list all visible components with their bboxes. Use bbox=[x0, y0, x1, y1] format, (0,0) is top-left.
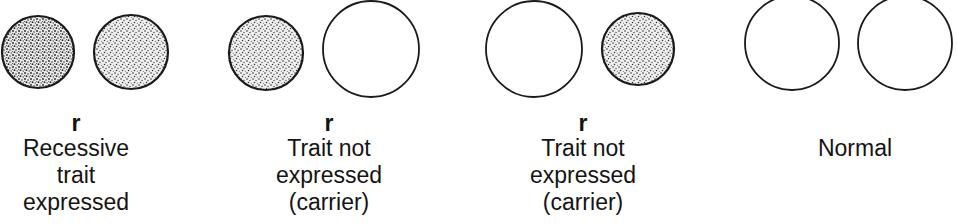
label-line: Trait not bbox=[483, 135, 683, 162]
stippled-chromosome-circle bbox=[602, 13, 674, 85]
group-label-normal: Normal bbox=[755, 135, 955, 162]
label-line: Normal bbox=[755, 135, 955, 162]
label-line: expressed bbox=[0, 189, 176, 216]
group-label-carrier-left: rTrait notexpressed(carrier) bbox=[229, 111, 429, 216]
stippled-chromosome-circle bbox=[2, 16, 74, 88]
label-line: (carrier) bbox=[483, 189, 683, 216]
open-chromosome-circle bbox=[486, 1, 582, 97]
label-line: expressed bbox=[229, 162, 429, 189]
label-line: expressed bbox=[483, 162, 683, 189]
label-line: trait bbox=[0, 162, 176, 189]
label-line: Trait not bbox=[229, 135, 429, 162]
stippled-chromosome-circle bbox=[229, 16, 303, 90]
group-label-carrier-right: rTrait notexpressed(carrier) bbox=[483, 111, 683, 216]
allele-symbol: r bbox=[483, 111, 683, 135]
open-chromosome-circle bbox=[323, 1, 419, 97]
label-line: (carrier) bbox=[229, 189, 429, 216]
open-chromosome-circle bbox=[858, 0, 952, 90]
group-label-recessive-expressed: rRecessivetraitexpressed bbox=[0, 111, 176, 216]
allele-symbol: r bbox=[0, 111, 176, 135]
label-line: Recessive bbox=[0, 135, 176, 162]
stippled-chromosome-circle bbox=[94, 15, 168, 89]
allele-symbol: r bbox=[229, 111, 429, 135]
open-chromosome-circle bbox=[745, 0, 839, 90]
